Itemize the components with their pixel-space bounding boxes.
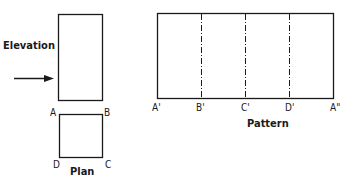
pattern-label: Pattern <box>247 118 289 129</box>
elevation-label: Elevation <box>3 40 55 51</box>
plan-corner-b: B <box>104 108 110 118</box>
elevation-rectangle <box>59 15 103 101</box>
view-arrow-icon <box>14 75 54 82</box>
pattern-point-b-prime: B' <box>196 103 205 113</box>
development-diagram: Elevation A B D C Plan A' B' C' D' A" Pa… <box>0 0 351 184</box>
pattern-point-c-prime: C' <box>241 103 250 113</box>
plan-corner-d: D <box>53 160 60 170</box>
pattern-point-a-double-prime: A" <box>330 103 340 113</box>
pattern-point-a-prime: A' <box>152 103 161 113</box>
plan-label: Plan <box>70 166 94 177</box>
plan-square <box>60 115 103 158</box>
plan-corner-a: A <box>50 108 56 118</box>
diagram-drawing <box>0 0 351 184</box>
plan-corner-c: C <box>105 160 111 170</box>
pattern-point-d-prime: D' <box>285 103 294 113</box>
